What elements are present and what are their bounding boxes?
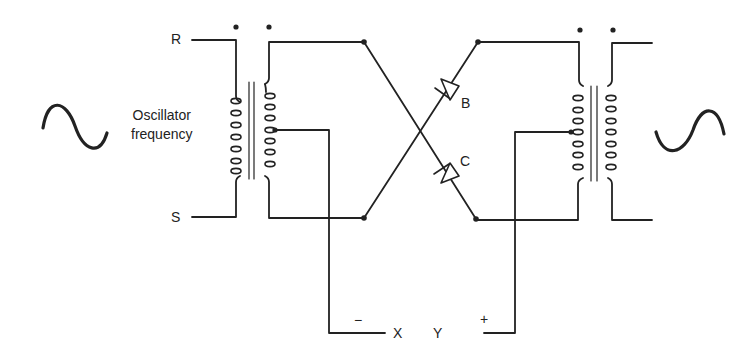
right-primary-dot bbox=[577, 27, 582, 32]
output-transformer-primary bbox=[476, 42, 583, 220]
diode-b-icon bbox=[435, 79, 459, 100]
output-y-label: Y bbox=[433, 326, 442, 340]
left-secondary-dot bbox=[266, 24, 271, 29]
terminal-s-label: S bbox=[171, 210, 180, 224]
input-transformer-core bbox=[249, 82, 254, 179]
left-center-tap-wire bbox=[275, 130, 385, 333]
output-x-label: X bbox=[393, 326, 402, 340]
minus-sign: − bbox=[354, 313, 362, 327]
input-transformer-primary bbox=[192, 40, 242, 217]
circuit-schematic bbox=[0, 0, 756, 359]
right-sine-wave-icon bbox=[656, 111, 724, 151]
right-secondary-dot bbox=[610, 27, 615, 32]
diode-b-label: B bbox=[461, 96, 470, 110]
oscillator-frequency-label: Oscillator frequency bbox=[131, 106, 192, 144]
left-sine-wave-icon bbox=[43, 105, 107, 148]
terminal-r-label: R bbox=[171, 32, 181, 46]
circuit-diagram: R S Oscillator frequency B C X Y − + bbox=[0, 0, 756, 359]
plus-sign: + bbox=[480, 312, 488, 326]
diode-c-label: C bbox=[460, 154, 470, 168]
right-center-tap-wire bbox=[484, 132, 571, 333]
oscillator-label-line1: Oscillator bbox=[131, 106, 192, 125]
output-transformer-secondary bbox=[606, 43, 652, 220]
diode-c-icon bbox=[434, 163, 459, 183]
left-primary-dot bbox=[233, 24, 238, 29]
oscillator-label-line2: frequency bbox=[131, 125, 192, 144]
output-transformer-core bbox=[591, 86, 597, 181]
